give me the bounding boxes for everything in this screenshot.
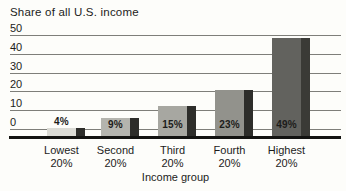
- bar-lowest-20-: [47, 128, 76, 136]
- x-tick-line: Lowest: [34, 144, 90, 157]
- bar-value-label-highest-20-: 49%: [267, 119, 307, 130]
- x-tick-line: 20%: [145, 157, 201, 170]
- x-axis-line: [9, 136, 341, 139]
- x-tick-label-second-20-: Second20%: [88, 144, 144, 169]
- gridline-50: [10, 35, 341, 36]
- x-tick-line: Third: [145, 144, 201, 157]
- income-share-bar-chart: Share of all U.S. income 010203040504%Lo…: [0, 0, 346, 191]
- x-tick-label-lowest-20-: Lowest20%: [34, 144, 90, 169]
- bar-value-label-third-20-: 15%: [153, 119, 193, 130]
- x-axis-label: Income group: [10, 171, 341, 183]
- chart-title: Share of all U.S. income: [10, 6, 139, 18]
- x-tick-line: Second: [88, 144, 144, 157]
- x-tick-line: 20%: [259, 157, 315, 170]
- bar-shadow-lowest-20-: [76, 128, 85, 136]
- x-tick-line: 20%: [202, 157, 258, 170]
- y-tick-label-50: 50: [10, 22, 22, 34]
- x-tick-label-third-20-: Third20%: [145, 144, 201, 169]
- y-tick-label-20: 20: [10, 78, 22, 90]
- y-tick-label-10: 10: [10, 97, 22, 109]
- x-tick-line: Fourth: [202, 144, 258, 157]
- y-tick-label-30: 30: [10, 60, 22, 72]
- y-tick-label-0: 0: [10, 116, 16, 128]
- bar-value-label-lowest-20-: 4%: [42, 116, 82, 127]
- x-tick-label-fourth-20-: Fourth20%: [202, 144, 258, 169]
- x-tick-line: 20%: [34, 157, 90, 170]
- x-tick-line: 20%: [88, 157, 144, 170]
- y-tick-label-40: 40: [10, 41, 22, 53]
- x-tick-line: Highest: [259, 144, 315, 157]
- bar-value-label-second-20-: 9%: [96, 119, 136, 130]
- bar-value-label-fourth-20-: 23%: [210, 119, 250, 130]
- x-tick-label-highest-20-: Highest20%: [259, 144, 315, 169]
